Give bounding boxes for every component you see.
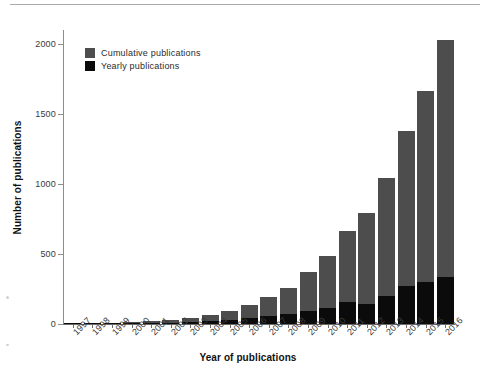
bar-2008	[280, 30, 297, 324]
bar-2016	[437, 30, 454, 324]
bar-2015	[417, 30, 434, 324]
y-axis-tick	[58, 324, 63, 325]
bar-2009	[300, 30, 317, 324]
legend-label-yearly: Yearly publications	[101, 61, 180, 71]
bar-2013	[378, 30, 395, 324]
bar-1999	[104, 30, 121, 324]
legend-label-cumulative: Cumulative publications	[101, 48, 201, 58]
legend-swatch-yearly	[85, 61, 95, 71]
bar-2014	[398, 30, 415, 324]
chart-legend: Cumulative publications Yearly publicati…	[85, 48, 201, 74]
y-axis-title: Number of publications	[12, 88, 23, 268]
bar-2004	[202, 30, 219, 324]
bar-2001	[143, 30, 160, 324]
page-top-rule	[10, 4, 480, 5]
legend-item-cumulative: Cumulative publications	[85, 48, 201, 58]
bar-2007	[260, 30, 277, 324]
bar-2003	[182, 30, 199, 324]
legend-swatch-cumulative	[85, 48, 95, 58]
legend-item-yearly: Yearly publications	[85, 61, 201, 71]
publications-bar-chart: 0500100015002000 Number of publications …	[0, 0, 486, 377]
bar-2010	[319, 30, 336, 324]
bar-2002	[162, 30, 179, 324]
x-axis-title: Year of publications	[0, 352, 486, 363]
bar-2006	[241, 30, 258, 324]
bar-2011	[339, 30, 356, 324]
y-axis-tick-label: 2000	[16, 39, 56, 49]
bar-2005	[221, 30, 238, 324]
y-axis-tick-label: 0	[16, 319, 56, 329]
x-axis-title-text: Year of publications	[199, 352, 296, 363]
bar-group	[63, 30, 455, 324]
bar-2000	[123, 30, 140, 324]
bar-1998	[84, 30, 101, 324]
bar-1997	[64, 30, 81, 324]
bar-2012	[358, 30, 375, 324]
